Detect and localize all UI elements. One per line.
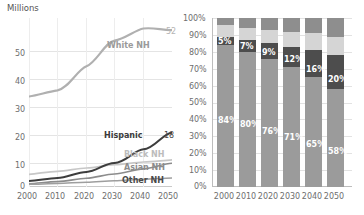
bar-column-2040[interactable]: 16% 65% [305, 18, 322, 187]
segment-black-nh [283, 32, 300, 47]
series-label-asian-nh: Asian NH [124, 163, 165, 172]
segment-other-nh [261, 18, 278, 30]
segment-label-white-nh: 76% [262, 128, 281, 136]
left-chart-axis-title: Millions [7, 3, 39, 13]
right-xtick-2050: 2050 [322, 192, 346, 201]
right-ytick-10: 10% [189, 166, 206, 175]
left-ytick-40: 40 [3, 77, 25, 86]
right-ytick-60: 60% [189, 82, 206, 91]
right-xtick-2010: 2010 [234, 192, 258, 201]
right-xtick-2040: 2040 [300, 192, 324, 201]
left-ytick-0: 0 [3, 182, 25, 191]
segment-label-hispanic: 16% [306, 66, 325, 74]
series-line-white-nh [29, 28, 172, 96]
segment-other-nh [217, 18, 234, 25]
right-ytick-70: 70% [189, 65, 206, 74]
segment-label-white-nh: 84% [218, 117, 237, 125]
right-ytick-30: 30% [189, 132, 206, 141]
series-label-hispanic: Hispanic [104, 131, 143, 140]
segment-black-nh [327, 37, 344, 56]
segment-other-nh [327, 18, 344, 37]
left-ytick-10: 10 [3, 161, 25, 170]
right-ytick-0: 0% [194, 182, 207, 191]
segment-label-white-nh: 58% [328, 148, 347, 156]
right-xtick-2020: 2020 [256, 192, 280, 201]
segment-label-hispanic: 20% [328, 76, 347, 84]
bar-column-2050[interactable]: 20% 58% [327, 18, 344, 187]
left-xtick-2030: 2030 [102, 192, 122, 201]
segment-black-nh [305, 33, 322, 50]
segment-label-hispanic: 5% [218, 38, 232, 46]
right-xtick-2030: 2030 [278, 192, 302, 201]
right-ytick-80: 80% [189, 48, 206, 57]
segment-other-nh [283, 18, 300, 32]
segment-black-nh [239, 28, 256, 40]
left-xtick-2010: 2010 [45, 192, 65, 201]
left-ytick-20: 20 [3, 133, 25, 142]
segment-other-nh [239, 18, 256, 28]
population-share-stacked-bar-chart: 100% 90% 80% 70% 60% 50% 40% 30% 20% 10%… [182, 0, 364, 215]
dual-chart-figure: Millions 50 40 30 20 10 0 [0, 0, 364, 215]
left-xtick-2050: 2050 [158, 192, 178, 201]
segment-white-nh [327, 89, 344, 187]
segment-label-hispanic: 12% [284, 56, 303, 64]
segment-label-hispanic: 7% [240, 43, 254, 51]
right-xtick-2000: 2000 [212, 192, 236, 201]
left-ytick-30: 30 [3, 105, 25, 114]
segment-black-nh [261, 30, 278, 44]
bar-column-2010[interactable]: 7% 80% [239, 18, 256, 187]
right-ytick-90: 90% [189, 31, 206, 40]
right-axis-yline [212, 18, 213, 187]
segment-other-nh [305, 18, 322, 33]
left-xtick-2040: 2040 [130, 192, 150, 201]
series-endvalue-white-nh: 52 [166, 27, 176, 36]
series-label-white-nh: White NH [107, 41, 150, 50]
bar-column-2020[interactable]: 9% 76% [261, 18, 278, 187]
segment-black-nh [217, 25, 234, 37]
left-ytick-50: 50 [3, 49, 25, 58]
right-ytick-40: 40% [189, 115, 206, 124]
right-ytick-20: 20% [189, 149, 206, 158]
left-xtick-2020: 2020 [74, 192, 94, 201]
bar-column-2030[interactable]: 12% 71% [283, 18, 300, 187]
series-endvalue-hispanic: 18 [164, 131, 174, 140]
segment-label-white-nh: 80% [240, 121, 259, 129]
population-line-chart: Millions 50 40 30 20 10 0 [0, 0, 182, 215]
bar-column-2000[interactable]: 5% 84% [217, 18, 234, 187]
left-xtick-2000: 2000 [17, 192, 37, 201]
segment-white-nh [261, 59, 278, 187]
left-chart-svg [29, 18, 172, 187]
segment-white-nh [283, 67, 300, 187]
right-plot-area: 5% 84% 7% 80% 9% 76% [212, 18, 352, 187]
segment-label-white-nh: 71% [284, 134, 303, 142]
segment-label-white-nh: 65% [306, 141, 325, 149]
series-label-black-nh: Black NH [124, 150, 164, 159]
left-plot-area [29, 18, 172, 187]
right-ytick-100: 100% [183, 14, 205, 23]
segment-white-nh [305, 77, 322, 187]
right-ytick-50: 50% [189, 98, 206, 107]
series-label-other-nh: Other NH [122, 176, 164, 185]
segment-label-hispanic: 9% [262, 49, 276, 57]
